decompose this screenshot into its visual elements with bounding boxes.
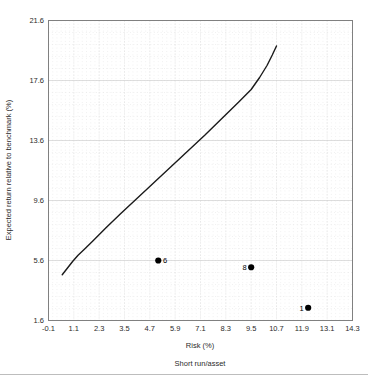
x-tick-label: 8.3 [221,324,231,333]
chart-caption: Short run/asset [175,359,227,368]
x-tick-label: 7.1 [195,324,205,333]
scatter-point-8 [248,264,254,270]
scatter-points: 681 [155,256,311,312]
x-tick-label: 11.9 [295,324,309,333]
y-tick-label: 9.6 [34,196,44,205]
y-axis-tick-labels: 1.65.69.613.617.621.6 [29,16,44,325]
scatter-point-label-8: 8 [242,263,246,272]
scatter-point-1 [305,305,311,311]
chart-container: 681 -0.11.12.33.54.75.97.18.39.510.711.9… [0,0,368,377]
risk-return-scatter-chart: 681 -0.11.12.33.54.75.97.18.39.510.711.9… [0,0,368,377]
scatter-point-label-6: 6 [163,256,167,265]
x-tick-label: -0.1 [42,324,55,333]
x-tick-label: 13.1 [320,324,335,333]
x-axis-title: Risk (%) [186,341,215,350]
x-tick-label: 9.5 [246,324,256,333]
x-tick-label: 3.5 [119,324,129,333]
y-tick-label: 13.6 [29,136,44,145]
x-tick-label: 10.7 [269,324,284,333]
y-axis-title: Expected return relative to benchmark (%… [4,99,13,240]
x-tick-label: 2.3 [94,324,104,333]
y-tick-label: 17.6 [29,76,44,85]
x-axis-tick-labels: -0.11.12.33.54.75.97.18.39.510.711.913.1… [42,324,360,333]
x-tick-label: 1.1 [69,324,79,333]
y-tick-label: 5.6 [34,256,44,265]
x-tick-label: 5.9 [170,324,180,333]
scatter-point-label-1: 1 [299,304,303,313]
y-tick-label: 1.6 [34,316,44,325]
x-tick-label: 4.7 [145,324,155,333]
x-tick-label: 14.3 [345,324,360,333]
scatter-point-6 [155,257,161,263]
y-tick-label: 21.6 [29,16,44,25]
